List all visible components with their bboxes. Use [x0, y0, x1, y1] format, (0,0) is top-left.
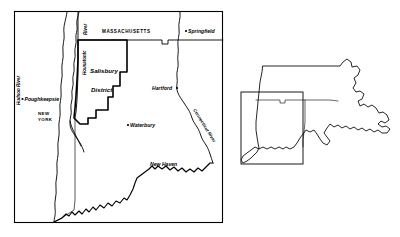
city-dot-waterbury: [127, 124, 129, 126]
city-dot-springfield: [185, 30, 187, 32]
label-new-york-line1: NEW: [38, 111, 50, 116]
label-hudson-river: Hudson River: [16, 75, 21, 105]
label-massachusetts: MASSACHUSETTS: [102, 29, 151, 34]
label-housatonic-river-line2: Housatonic: [82, 50, 87, 75]
southern-new-england-outline: [241, 59, 390, 163]
main-map-panel: MASSACHUSETTS NEW YORK Salisbury Distric…: [15, 12, 224, 223]
city-dot-poughkeepsie: [21, 98, 23, 100]
ma-southern-internal-border: [256, 100, 338, 103]
label-springfield: Springfield: [188, 28, 215, 34]
locator-rectangle: [241, 92, 303, 164]
label-housatonic-river-line1: River: [83, 23, 88, 35]
inset-locator-map: [241, 59, 390, 164]
label-hartford: Hartford: [152, 85, 173, 91]
label-new-york-line2: YORK: [38, 117, 53, 122]
map-figure: MASSACHUSETTS NEW YORK Salisbury Distric…: [0, 0, 400, 237]
label-waterbury: Waterbury: [130, 122, 156, 128]
city-dot-hartford: [176, 87, 178, 89]
label-salisbury-district-line2: District: [91, 86, 113, 93]
label-salisbury-district-line1: Salisbury: [90, 67, 118, 74]
label-poughkeepsie: Poughkeepsie: [25, 96, 60, 102]
label-new-haven: New Haven: [150, 161, 177, 167]
